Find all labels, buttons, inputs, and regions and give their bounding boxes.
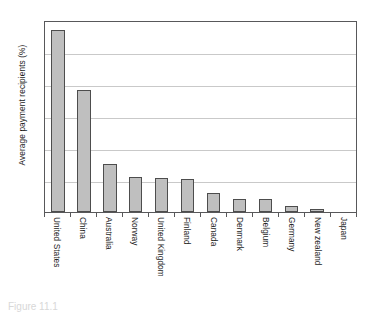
bar-slot: [123, 22, 149, 212]
bar-slot: [71, 22, 97, 212]
bar[interactable]: [310, 209, 323, 212]
x-tick-label: Norway: [130, 217, 140, 245]
x-label-cell: Japan: [331, 217, 357, 292]
x-tick-label: United Kingdom: [156, 217, 166, 277]
x-label-cell: United Kingdom: [148, 217, 174, 292]
bar[interactable]: [51, 30, 64, 212]
x-label-cell: Belgium: [253, 217, 279, 292]
bar[interactable]: [77, 90, 90, 212]
x-label-cell: Germany: [279, 217, 305, 292]
x-tick-label: Australia: [104, 217, 114, 250]
bar[interactable]: [103, 164, 116, 212]
bar[interactable]: [207, 193, 220, 212]
bar[interactable]: [155, 178, 168, 212]
x-label-cell: China: [70, 217, 96, 292]
x-tick-label: Denmark: [235, 217, 245, 251]
bar-slot: [97, 22, 123, 212]
x-tick-label: United States: [52, 217, 62, 267]
bar-slot: [45, 22, 71, 212]
bar-series: [45, 22, 356, 212]
bar-slot: [278, 22, 304, 212]
x-axis-labels: United StatesChinaAustraliaNorwayUnited …: [44, 217, 357, 292]
x-label-cell: New zealand: [305, 217, 331, 292]
x-tick-label: Finland: [182, 217, 192, 245]
x-label-cell: Canada: [200, 217, 226, 292]
plot-area: 6050403020100: [44, 21, 357, 213]
bar[interactable]: [259, 199, 272, 212]
bar-slot: [252, 22, 278, 212]
bar-slot: [226, 22, 252, 212]
bar-slot: [304, 22, 330, 212]
bar[interactable]: [181, 179, 194, 212]
x-tick-label: China: [78, 217, 88, 239]
x-label-cell: Norway: [122, 217, 148, 292]
x-label-cell: Australia: [96, 217, 122, 292]
bar[interactable]: [129, 177, 142, 212]
bar[interactable]: [285, 206, 298, 212]
bar-slot: [175, 22, 201, 212]
x-tick-label: Germany: [287, 217, 297, 251]
bar-slot: [330, 22, 356, 212]
x-label-cell: Finland: [174, 217, 200, 292]
bar-slot: [149, 22, 175, 212]
x-tick-label: Japan: [339, 217, 349, 240]
x-tick-label: Belgium: [261, 217, 271, 247]
x-tick-label: Canada: [209, 217, 219, 246]
x-tick-label: New zealand: [313, 217, 323, 266]
x-label-cell: United States: [44, 217, 70, 292]
figure-caption: Figure 11.1: [8, 301, 158, 313]
bar-slot: [201, 22, 227, 212]
y-axis-title: Average payment recipients (%): [17, 20, 27, 190]
x-label-cell: Denmark: [227, 217, 253, 292]
bar[interactable]: [233, 199, 246, 212]
